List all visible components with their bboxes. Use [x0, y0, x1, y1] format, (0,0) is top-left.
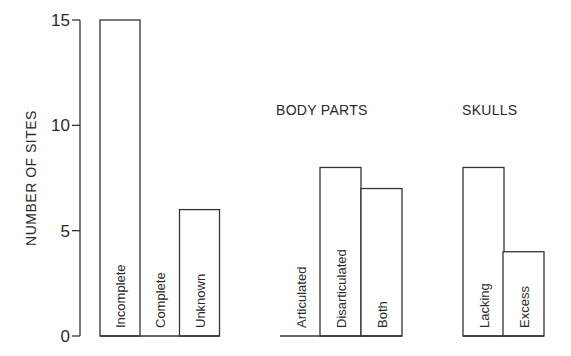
bar-group: BODY PARTSArticulatedDisarticulatedBoth	[276, 102, 402, 336]
bar-label: Complete	[153, 272, 168, 328]
y-tick-label: 15	[51, 11, 70, 30]
bar-label: Both	[375, 301, 390, 328]
bar-label: Lacking	[477, 283, 492, 328]
y-tick-label: 10	[51, 116, 70, 135]
bar-chart: 051015 NUMBER OF SITES IncompleteComplet…	[0, 0, 571, 356]
bar-label: Articulated	[294, 267, 309, 328]
y-axis-title: NUMBER OF SITES	[23, 110, 39, 246]
bars: IncompleteCompleteUnknownBODY PARTSArtic…	[100, 20, 544, 336]
bar-group: IncompleteCompleteUnknown	[100, 20, 220, 336]
y-tick-label: 0	[61, 327, 70, 346]
bar-label: Unknown	[193, 274, 208, 328]
bar-group: SKULLSLackingExcess	[462, 102, 544, 336]
bar-label: Incomplete	[113, 264, 128, 328]
group-title: SKULLS	[462, 102, 518, 118]
bar-label: Excess	[517, 286, 532, 328]
y-axis: 051015	[51, 11, 80, 346]
bar-label: Disarticulated	[334, 249, 349, 328]
group-title: BODY PARTS	[276, 102, 368, 118]
y-tick-label: 5	[61, 222, 70, 241]
